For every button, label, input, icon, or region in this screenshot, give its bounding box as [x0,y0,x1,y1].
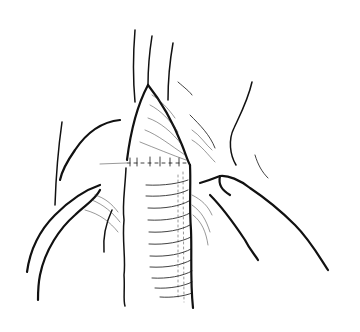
left-tissue [27,120,120,300]
illustration-svg [0,0,360,332]
surgical-illustration: beveled ribbed tubular graft sutured end… [0,0,360,332]
graft-tube [100,85,193,308]
right-tissue [178,82,328,270]
